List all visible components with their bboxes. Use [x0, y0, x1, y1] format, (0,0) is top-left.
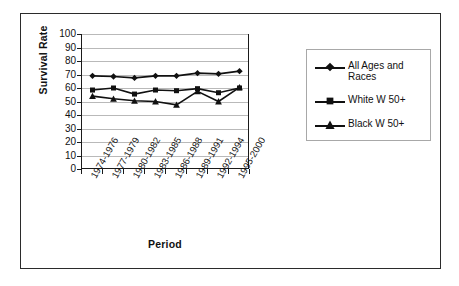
- y-tick-label: 90: [65, 43, 76, 53]
- y-axis-title: Survival Rate: [37, 0, 49, 120]
- data-point: [131, 75, 137, 81]
- data-point: [194, 70, 200, 76]
- x-axis-title: Period: [81, 238, 249, 250]
- data-point: [236, 68, 242, 74]
- data-point: [110, 73, 116, 79]
- data-point: [111, 86, 116, 91]
- chart-legend: All Ages and RacesWhite W 50+Black W 50+: [306, 49, 431, 141]
- y-tick-label: 80: [65, 56, 76, 66]
- diamond-marker: [315, 61, 345, 73]
- x-tick-mark: [81, 169, 82, 174]
- y-tick-label: 50: [65, 97, 76, 107]
- y-tick-label: 0: [70, 164, 76, 174]
- y-tick-label: 60: [65, 83, 76, 93]
- legend-label: All Ages and Races: [345, 60, 427, 82]
- legend-label: White W 50+: [345, 94, 406, 105]
- line-chart: Survival Rate 1009080706050403020100 197…: [21, 14, 442, 270]
- data-point: [174, 88, 179, 93]
- y-tick-label: 70: [65, 70, 76, 80]
- data-point: [152, 73, 158, 79]
- data-series: [90, 86, 242, 97]
- data-point: [90, 88, 95, 93]
- x-axis-labels: 1974-19761977-19791980-19821983-19851986…: [81, 175, 249, 245]
- y-tick-label: 40: [65, 110, 76, 120]
- legend-item[interactable]: Black W 50+: [315, 118, 427, 131]
- y-tick-label: 20: [65, 137, 76, 147]
- data-point: [132, 92, 137, 97]
- legend-item[interactable]: All Ages and Races: [315, 60, 427, 82]
- triangle-marker: [315, 119, 345, 131]
- data-point: [89, 73, 95, 79]
- y-tick-label: 10: [65, 151, 76, 161]
- y-axis: 1009080706050403020100: [49, 34, 81, 169]
- data-series: [89, 68, 242, 81]
- data-point: [216, 90, 221, 95]
- y-tick-label: 30: [65, 124, 76, 134]
- legend-label: Black W 50+: [345, 118, 404, 129]
- data-point: [173, 73, 179, 79]
- square-marker: [315, 95, 345, 107]
- figure-frame: Survival Rate 1009080706050403020100 197…: [20, 13, 441, 269]
- y-tick-label: 100: [59, 29, 76, 39]
- data-point: [153, 88, 158, 93]
- legend-item[interactable]: White W 50+: [315, 94, 427, 107]
- data-point: [215, 71, 221, 77]
